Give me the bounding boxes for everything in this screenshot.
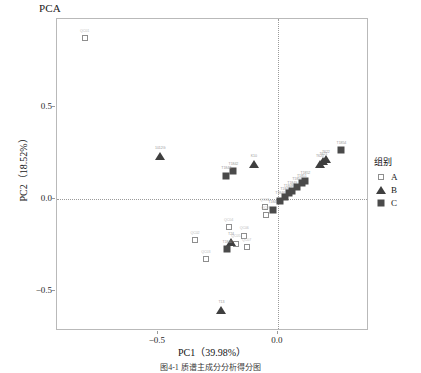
y-axis-label: PC2（18.52%） bbox=[15, 88, 30, 248]
data-point-label: T1852 bbox=[301, 172, 311, 176]
marker-filled-triangle-icon bbox=[249, 160, 259, 168]
vertical-reference-line bbox=[278, 19, 279, 329]
marker-open-square-icon bbox=[263, 212, 269, 218]
legend-item-c[interactable]: C bbox=[374, 196, 420, 209]
x-tick-mark bbox=[157, 331, 158, 334]
x-tick-mark bbox=[277, 331, 278, 334]
data-point-label: QC03 bbox=[201, 251, 210, 255]
marker-filled-square-icon bbox=[338, 147, 345, 154]
marker-filled-triangle-icon bbox=[155, 152, 165, 160]
legend-marker-open-square-icon bbox=[374, 170, 388, 183]
data-point-label: QC04 bbox=[224, 219, 233, 223]
data-point-label: QC07 bbox=[242, 239, 251, 243]
marker-filled-square-icon bbox=[223, 172, 230, 179]
legend-item-label: C bbox=[391, 198, 397, 208]
data-point-label: T1854 bbox=[337, 142, 347, 146]
y-tick-label: −0.5 bbox=[36, 285, 52, 295]
data-point-label: T622 bbox=[322, 151, 330, 155]
horizontal-reference-line bbox=[57, 199, 367, 200]
marker-open-square-icon bbox=[82, 35, 88, 41]
data-point-label: QC06 bbox=[240, 227, 249, 231]
y-axis-tick-marks bbox=[52, 18, 56, 330]
legend-items: ABC bbox=[374, 170, 420, 209]
legend-marker-filled-triangle-icon bbox=[374, 183, 388, 196]
legend-marker-filled-square-icon bbox=[374, 196, 388, 209]
data-point-label: 1012G bbox=[155, 147, 165, 151]
page-title: PCA bbox=[39, 2, 61, 14]
y-tick-label: 0.5 bbox=[41, 101, 52, 111]
legend: 组别 ABC bbox=[374, 155, 420, 209]
legend-item-label: A bbox=[391, 172, 398, 182]
marker-filled-square-icon bbox=[270, 206, 277, 213]
data-point-label: T24 bbox=[228, 233, 234, 237]
y-tick-mark bbox=[52, 290, 55, 291]
data-point-label: QC01 bbox=[80, 30, 89, 34]
marker-filled-triangle-icon bbox=[216, 306, 226, 314]
data-point-label: QC02 bbox=[191, 232, 200, 236]
legend-title: 组别 bbox=[374, 155, 420, 168]
data-point-label: K10 bbox=[251, 155, 257, 159]
marker-open-square-icon bbox=[226, 224, 232, 230]
y-tick-label: 0.0 bbox=[41, 193, 52, 203]
plot-panel: QC01QC02QC03QC04QC05QC06QC07QC08QC091012… bbox=[56, 18, 368, 330]
y-tick-mark bbox=[52, 106, 55, 107]
data-point-label: T1840 bbox=[223, 241, 233, 245]
marker-filled-triangle-icon bbox=[321, 155, 331, 163]
pca-figure: PCA QC01QC02QC03QC04QC05QC06QC07QC08QC09… bbox=[0, 0, 421, 373]
x-axis-label: PC1（39.98%） bbox=[56, 344, 368, 359]
legend-item-b[interactable]: B bbox=[374, 183, 420, 196]
y-tick-mark bbox=[52, 198, 55, 199]
marker-open-square-icon bbox=[192, 237, 198, 243]
figure-caption: 图4-1 ­­­­质谱主成分分析得分图 bbox=[0, 361, 421, 372]
data-point-label: T13 bbox=[218, 301, 224, 305]
marker-open-square-icon bbox=[203, 256, 209, 262]
data-point-label: T1843 bbox=[221, 167, 231, 171]
marker-filled-square-icon bbox=[302, 177, 309, 184]
legend-item-label: B bbox=[391, 185, 397, 195]
legend-item-a[interactable]: A bbox=[374, 170, 420, 183]
marker-open-square-icon bbox=[244, 244, 250, 250]
marker-filled-square-icon bbox=[224, 246, 231, 253]
